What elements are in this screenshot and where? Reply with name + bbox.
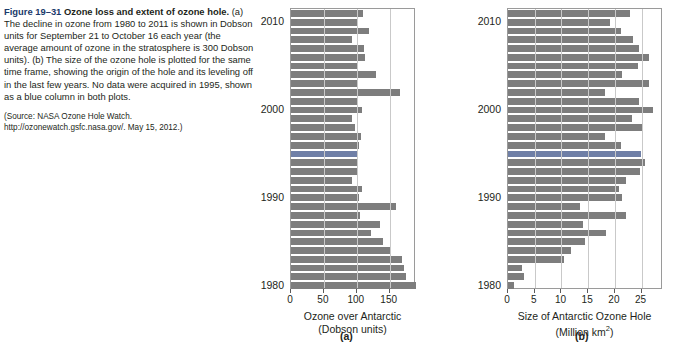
bar-row xyxy=(291,123,414,132)
x-tick xyxy=(560,289,561,293)
bar-row xyxy=(508,97,661,106)
bar-1991 xyxy=(291,186,362,193)
figure-caption: Figure 19–31 Ozone loss and extent of oz… xyxy=(4,6,254,133)
bar-1989 xyxy=(508,203,580,210)
bar-1999 xyxy=(508,115,632,122)
bar-row xyxy=(508,202,661,211)
bar-1997 xyxy=(291,133,361,140)
bar-1992 xyxy=(291,177,352,184)
x-tick-label-0: 0 xyxy=(504,294,510,305)
bar-row xyxy=(508,272,661,281)
x-tick xyxy=(641,289,642,293)
bar-2011 xyxy=(508,10,630,17)
bar-row xyxy=(508,141,661,150)
bar-2008 xyxy=(291,36,352,43)
bar-row xyxy=(508,88,661,97)
gridline xyxy=(615,9,616,288)
bar-row xyxy=(291,158,414,167)
bar-1993 xyxy=(508,168,640,175)
year-label-1980: 1980 xyxy=(261,279,284,291)
bar-1991 xyxy=(508,186,619,193)
bar-2002 xyxy=(508,89,605,96)
bar-2007 xyxy=(508,45,639,52)
bar-row xyxy=(508,220,661,229)
bar-row xyxy=(291,220,414,229)
gridline xyxy=(588,9,589,288)
bar-1990 xyxy=(508,194,622,201)
bar-1987 xyxy=(291,221,380,228)
bar-row xyxy=(508,114,661,123)
x-tick-label-150: 150 xyxy=(380,294,397,305)
bar-2000 xyxy=(291,107,362,114)
bar-row xyxy=(291,185,414,194)
bar-row xyxy=(508,53,661,62)
bar-row xyxy=(508,229,661,238)
year-label-2010: 2010 xyxy=(478,15,501,27)
bar-row xyxy=(291,35,414,44)
x-axis-title-line1-a: Ozone over Antarctic xyxy=(304,310,401,322)
bar-2006 xyxy=(291,54,365,61)
bar-1986 xyxy=(508,230,606,237)
x-tick-label-5: 5 xyxy=(531,294,537,305)
bar-1983 xyxy=(508,256,564,263)
bar-row xyxy=(508,264,661,273)
bar-row xyxy=(508,35,661,44)
panel-label-b: (b) xyxy=(575,330,588,342)
bar-row xyxy=(508,106,661,115)
bar-row xyxy=(291,53,414,62)
bar-2009 xyxy=(508,28,621,35)
plot-area-b xyxy=(507,8,662,289)
bar-row xyxy=(508,18,661,27)
bar-row xyxy=(291,62,414,71)
bar-row xyxy=(291,167,414,176)
caption-text: Figure 19–31 Ozone loss and extent of oz… xyxy=(4,6,254,133)
x-tick xyxy=(389,289,390,293)
figure-title: Ozone loss and extent of ozone hole. xyxy=(64,6,229,17)
bar-row xyxy=(291,114,414,123)
bar-2003 xyxy=(508,80,649,87)
bars-container-a xyxy=(291,9,414,288)
bar-row xyxy=(291,70,414,79)
bar-row xyxy=(508,70,661,79)
bar-1988 xyxy=(508,212,626,219)
bar-2005 xyxy=(508,63,638,70)
bar-2002 xyxy=(291,89,400,96)
bar-1980 xyxy=(508,282,514,289)
gridline xyxy=(642,9,643,288)
bar-1985 xyxy=(291,238,383,245)
x-tick xyxy=(356,289,357,293)
bar-2001 xyxy=(508,98,639,105)
bar-row xyxy=(508,132,661,141)
bar-1998 xyxy=(508,124,643,131)
x-tick-label-0: 0 xyxy=(287,294,293,305)
bar-row xyxy=(291,88,414,97)
bar-1990 xyxy=(291,194,359,201)
bar-1997 xyxy=(508,133,605,140)
bar-row xyxy=(291,211,414,220)
bar-row xyxy=(291,255,414,264)
caption-body: (a) The decline in ozone from 1980 to 20… xyxy=(4,6,253,102)
year-label-1980: 1980 xyxy=(478,279,501,291)
chart-panel-a: 1980199020002010 Ozone over Antarctic (D… xyxy=(252,0,457,347)
bar-2006 xyxy=(508,54,649,61)
bar-1986 xyxy=(291,230,371,237)
bar-2010 xyxy=(508,19,610,26)
year-axis-labels-a: 1980199020002010 xyxy=(252,8,288,289)
bar-row xyxy=(291,44,414,53)
x-tick xyxy=(323,289,324,293)
bar-row xyxy=(291,18,414,27)
figure-number: Figure 19–31 xyxy=(4,6,61,17)
plot-area-a xyxy=(290,8,415,289)
bar-1983 xyxy=(291,256,402,263)
bar-row xyxy=(508,167,661,176)
year-label-1990: 1990 xyxy=(478,191,501,203)
bar-row xyxy=(291,141,414,150)
bar-row xyxy=(291,264,414,273)
x-tick-label-10: 10 xyxy=(555,294,566,305)
x-tick-label-50: 50 xyxy=(317,294,328,305)
gridline xyxy=(357,9,358,288)
bar-1992 xyxy=(508,177,626,184)
x-tick-label-100: 100 xyxy=(347,294,364,305)
bar-row xyxy=(291,229,414,238)
bar-row xyxy=(508,9,661,18)
